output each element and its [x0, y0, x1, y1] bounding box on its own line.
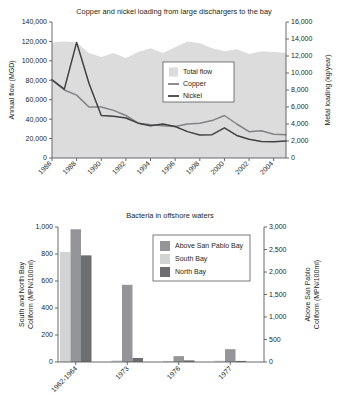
- chart-bacteria-svg: Bacteria in offshore waters 1962-1964197…: [0, 205, 341, 413]
- legend-label-total-flow: Total flow: [183, 68, 213, 75]
- legend-swatch-above-san-pablo-bay: [160, 241, 170, 251]
- legend-swatch-north-bay: [160, 267, 170, 277]
- legend-label-nickel: Nickel: [183, 92, 203, 99]
- ytick-label-left-top: 140,000: [22, 18, 47, 25]
- ytick-label-right-top: 12,000: [291, 52, 313, 59]
- legend-label-copper: Copper: [183, 80, 207, 88]
- bar-above-san-pablo-bay: [174, 356, 185, 362]
- ytick-label-right-top: 14,000: [291, 35, 313, 42]
- bar-above-san-pablo-bay: [225, 349, 236, 362]
- bar-north-bay: [81, 255, 92, 362]
- ytick-label-left-bottom: 400: [41, 304, 53, 311]
- xtick-label-top: 2004: [258, 160, 274, 176]
- ytick-label-right-bottom: 0: [269, 358, 273, 365]
- chart-copper-nickel-svg: Copper and nickel loading from large dis…: [0, 0, 341, 205]
- ytick-label-right-bottom: 1,000: [269, 313, 287, 320]
- ytick-label-right-top: 4,000: [291, 120, 309, 127]
- ytick-label-left-top: 40,000: [26, 116, 48, 123]
- plot-area-bottom: 1962-196419731976197702004006008001,0000…: [18, 223, 321, 393]
- xtick-label-bottom: 1962-1964: [50, 365, 79, 394]
- ytick-label-right-bottom: 1,500: [269, 291, 287, 298]
- xtick-label-bottom: 1973: [114, 365, 130, 381]
- axis-title-left-bottom: South and North BayColiform (MPN/100ml): [18, 260, 35, 329]
- ytick-label-right-top: 16,000: [291, 18, 313, 25]
- axis-title-left-top: Annual flow (MGD): [8, 60, 16, 119]
- xtick-label-top: 1994: [135, 160, 151, 176]
- ytick-label-left-top: 120,000: [22, 38, 47, 45]
- chart-title-bottom: Bacteria in offshore waters: [126, 211, 214, 220]
- xtick-label-top: 1998: [185, 160, 201, 176]
- chart-bacteria-offshore: Bacteria in offshore waters 1962-1964197…: [0, 205, 341, 413]
- xtick-label-top: 1996: [160, 160, 176, 176]
- ytick-label-left-top: 60,000: [26, 96, 48, 103]
- ytick-label-left-bottom: 800: [41, 250, 53, 257]
- ytick-label-right-top: 8,000: [291, 86, 309, 93]
- bar-above-san-pablo-bay: [122, 285, 133, 362]
- ytick-label-right-top: 0: [291, 154, 295, 161]
- chart-copper-nickel-loading: Copper and nickel loading from large dis…: [0, 0, 341, 205]
- ytick-label-right-bottom: 500: [269, 336, 281, 343]
- ytick-label-left-bottom: 200: [41, 331, 53, 338]
- xtick-label-top: 1992: [111, 160, 127, 176]
- ytick-label-left-top: 20,000: [26, 135, 48, 142]
- ytick-label-right-top: 6,000: [291, 103, 309, 110]
- xtick-label-top: 1986: [37, 160, 53, 176]
- xtick-label-top: 1990: [86, 160, 102, 176]
- ytick-label-right-top: 2,000: [291, 137, 309, 144]
- ytick-label-right-bottom: 2,500: [269, 246, 287, 253]
- legend-label-south-bay: South Bay: [175, 255, 208, 263]
- ytick-label-right-bottom: 3,000: [269, 223, 287, 230]
- bar-north-bay: [133, 358, 144, 362]
- xtick-label-top: 2000: [209, 160, 225, 176]
- ytick-label-left-bottom: 1,000: [35, 223, 53, 230]
- ytick-label-right-bottom: 2,000: [269, 268, 287, 275]
- bar-south-bay: [60, 252, 71, 362]
- figure-page: Copper and nickel loading from large dis…: [0, 0, 341, 413]
- legend-swatch-total-flow: [169, 68, 178, 77]
- ytick-label-left-top: 80,000: [26, 77, 48, 84]
- xtick-label-bottom: 1977: [217, 365, 233, 381]
- chart-title-top: Copper and nickel loading from large dis…: [76, 7, 272, 16]
- legend-label-above-san-pablo-bay: Above San Pablo Bay: [175, 242, 244, 250]
- xtick-label-top: 2002: [234, 160, 250, 176]
- legend-label-north-bay: North Bay: [175, 268, 207, 276]
- xtick-label-bottom: 1976: [165, 365, 181, 381]
- xtick-label-top: 1988: [61, 160, 77, 176]
- axis-title-right-bottom: Above San PabloColiform (MPN/100ml): [304, 260, 321, 329]
- bar-above-san-pablo-bay: [71, 229, 82, 362]
- ytick-label-left-bottom: 600: [41, 277, 53, 284]
- axis-title-right-top: Metal loading (kg/year): [324, 54, 332, 125]
- ytick-label-left-bottom: 0: [49, 358, 53, 365]
- plot-area-top: 020,00040,00060,00080,000100,000120,0001…: [8, 18, 332, 175]
- ytick-label-right-top: 10,000: [291, 69, 313, 76]
- ytick-label-left-top: 100,000: [22, 57, 47, 64]
- legend-swatch-south-bay: [160, 254, 170, 264]
